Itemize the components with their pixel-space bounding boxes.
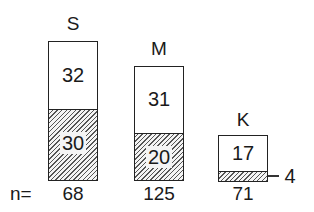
bar-k: 17 bbox=[218, 135, 268, 182]
n-value-m: 125 bbox=[134, 184, 184, 204]
bar-m: 31 20 bbox=[134, 66, 184, 181]
bar-k-top-value: 17 bbox=[219, 142, 267, 164]
bar-k-bottom-segment bbox=[219, 172, 267, 181]
n-value-k: 71 bbox=[218, 184, 268, 204]
n-prefix-label: n= bbox=[10, 184, 44, 204]
bar-k-bottom-value: 4 bbox=[282, 166, 298, 186]
bar-m-top-segment: 31 bbox=[135, 67, 183, 134]
bar-k-leader-line bbox=[268, 175, 279, 177]
category-label-m: M bbox=[134, 39, 184, 59]
bar-m-bottom-value: 20 bbox=[135, 146, 183, 168]
bar-m-top-value: 31 bbox=[135, 88, 183, 110]
bar-s-bottom-segment: 30 bbox=[49, 110, 97, 180]
category-label-k: K bbox=[218, 110, 268, 130]
bar-s-bottom-value: 30 bbox=[49, 132, 97, 154]
n-value-s: 68 bbox=[48, 184, 98, 204]
bar-m-bottom-segment: 20 bbox=[135, 134, 183, 180]
category-label-s: S bbox=[48, 14, 98, 34]
bar-s-top-segment: 32 bbox=[49, 42, 97, 110]
bar-s: 32 30 bbox=[48, 41, 98, 181]
bar-k-top-segment: 17 bbox=[219, 136, 267, 172]
bar-s-top-value: 32 bbox=[49, 64, 97, 86]
